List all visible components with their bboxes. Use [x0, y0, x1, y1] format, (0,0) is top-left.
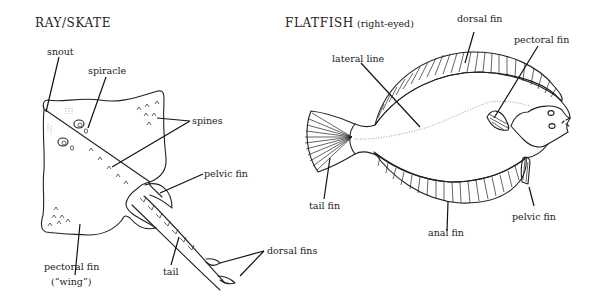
flatfish-dorsal-rays — [378, 52, 556, 118]
flatfish-title: FLATFISH — [285, 16, 354, 30]
leader-pelvic-fin-ff — [529, 187, 534, 206]
flatfish-subtitle: (right-eyed) — [357, 18, 414, 29]
label-tail: tail — [163, 266, 179, 277]
flatfish-head — [511, 106, 570, 147]
label-spines: spines — [192, 115, 223, 126]
flatfish-anal-fin — [374, 152, 526, 203]
leader-pelvic-fin — [160, 174, 203, 193]
ray-eye-right — [58, 138, 74, 150]
flatfish-pectoral-rays — [489, 114, 508, 130]
leader-snout — [46, 57, 59, 112]
label-lateral-line: lateral line — [332, 53, 385, 64]
label-dorsal-fin: dorsal fin — [457, 13, 502, 24]
leader-tail — [171, 237, 179, 265]
label-tail-fin: tail fin — [309, 200, 340, 211]
leader-lateral-line — [361, 63, 420, 127]
flatfish-pelvic-rays — [523, 160, 528, 182]
ray-dorsal-fin-2 — [218, 276, 235, 284]
flatfish-eye-upper — [548, 111, 554, 116]
leader-spiracle — [88, 77, 106, 128]
flatfish-mouth — [562, 118, 570, 126]
flatfish-panel: FLATFISH (right-eyed) — [285, 13, 570, 238]
ray-spines — [48, 101, 159, 226]
label-anal-fin: anal fin — [428, 227, 464, 238]
label-pelvic-fin: pelvic fin — [204, 168, 248, 179]
ray-pelvic-fin — [145, 184, 172, 208]
leader-dorsal-fins — [220, 251, 264, 276]
label-dorsal-fins: dorsal fins — [267, 245, 317, 256]
flatfish-pectoral-fin — [487, 111, 509, 130]
flatfish-eye-lower — [549, 124, 555, 129]
label-snout: snout — [47, 46, 74, 57]
label-pectoral-fin: pectoral fin — [44, 261, 99, 272]
label-pectoral-fin-ff: pectoral fin — [514, 34, 569, 45]
label-spiracle: spiracle — [88, 65, 127, 76]
flatfish-pelvic-fin — [521, 157, 530, 184]
leader-spines — [112, 118, 190, 167]
ray-skate-panel: RAY/SKATE — [35, 16, 317, 290]
label-pelvic-fin-ff: pelvic fin — [512, 211, 556, 222]
fish-anatomy-diagram: RAY/SKATE — [0, 0, 601, 304]
ray-body-outline — [41, 91, 166, 235]
label-wing: (“wing”) — [51, 276, 92, 287]
leader-tail-fin — [324, 158, 330, 199]
ray-snout-dots — [48, 108, 72, 134]
ray-title: RAY/SKATE — [35, 16, 111, 30]
flatfish-anal-rays — [378, 157, 519, 203]
